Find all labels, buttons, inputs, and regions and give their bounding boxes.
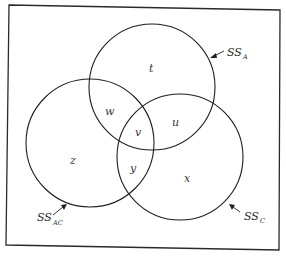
region-label-v: v — [135, 126, 142, 139]
arrow-head-ss-c — [229, 204, 235, 210]
set-name-ss-a: SS — [227, 46, 242, 59]
set-name-ss-ac: SS — [37, 211, 52, 224]
region-label-y: y — [129, 162, 137, 175]
set-label-ss-c: SS C — [229, 204, 265, 225]
region-label-t: t — [149, 62, 154, 75]
arrow-head-ss-ac — [61, 204, 67, 210]
circle-ss-a — [89, 24, 215, 150]
circle-ss-c — [117, 94, 243, 220]
set-label-ss-ac: SS AC — [37, 204, 67, 227]
venn-diagram: t w u v z y x SS A SS AC SS C — [0, 0, 286, 256]
region-label-z: z — [69, 154, 76, 167]
set-subscript-c: C — [260, 217, 265, 225]
region-label-u: u — [172, 116, 179, 129]
region-label-w: w — [105, 105, 115, 118]
arrow-head-ss-a — [210, 53, 217, 58]
set-name-ss-c: SS — [244, 210, 259, 223]
arrow-ss-ac — [53, 207, 63, 215]
set-label-ss-a: SS A — [210, 46, 248, 61]
arrow-ss-c — [233, 207, 240, 212]
set-subscript-ac: AC — [52, 219, 63, 227]
set-subscript-a: A — [242, 53, 248, 61]
region-label-x: x — [184, 172, 191, 185]
